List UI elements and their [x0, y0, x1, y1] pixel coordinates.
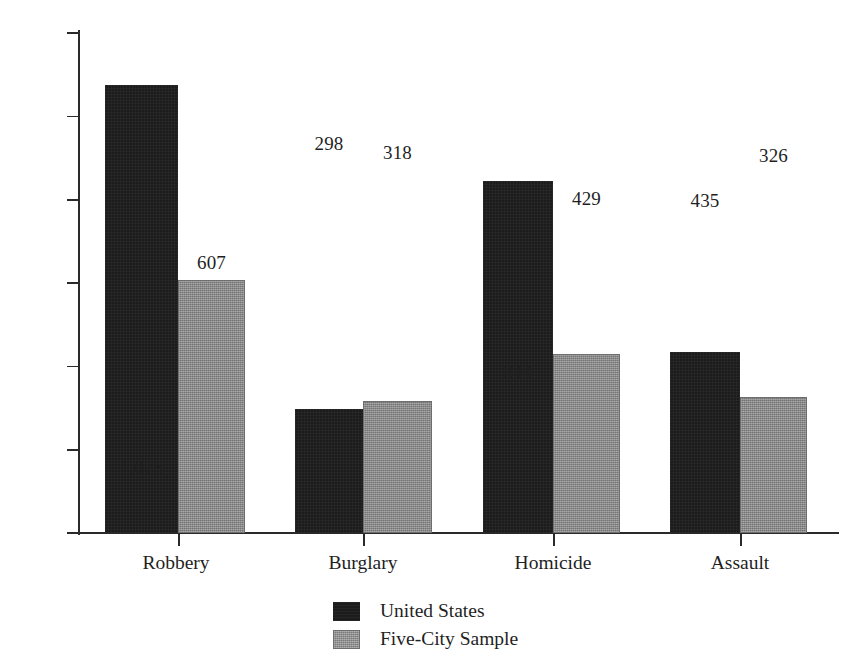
y-tick-mark	[67, 199, 79, 201]
legend: United States Five-City Sample	[333, 597, 518, 653]
y-tick-mark	[67, 366, 79, 368]
x-tick-mark-robbery	[178, 534, 180, 546]
legend-label-united-states: United States	[380, 600, 485, 622]
bar-assault-united-states	[670, 352, 740, 533]
legend-swatch-dark-icon	[333, 602, 360, 621]
bar-value-homicide-united-states: 844	[503, 361, 532, 383]
bar-robbery-five-city-sample	[178, 280, 245, 533]
bar-assault-five-city-sample	[740, 397, 807, 533]
x-category-label-robbery: Robbery	[142, 552, 209, 574]
bar-value-burglary-five-city-sample: 318	[383, 142, 412, 164]
legend-item-five-city-sample: Five-City Sample	[333, 625, 518, 653]
x-tick-mark-homicide	[553, 534, 555, 546]
bar-value-assault-united-states: 435	[690, 190, 719, 212]
x-category-label-burglary: Burglary	[329, 552, 398, 574]
bar-chart: 1,200 1,000 800 600 400 200 0 1,075 607 …	[0, 0, 853, 664]
y-tick-mark	[67, 449, 79, 451]
bar-value-assault-five-city-sample: 326	[759, 145, 788, 167]
y-tick-mark	[67, 116, 79, 118]
bar-burglary-united-states	[295, 409, 363, 533]
x-category-label-homicide: Homicide	[515, 552, 592, 574]
y-tick-mark	[67, 32, 79, 34]
bar-value-robbery-united-states: 1,075	[120, 457, 164, 479]
bar-value-robbery-five-city-sample: 607	[197, 252, 226, 274]
x-category-label-assault: Assault	[711, 552, 770, 574]
bar-value-homicide-five-city-sample: 429	[572, 188, 601, 210]
bar-homicide-five-city-sample	[553, 354, 620, 533]
legend-swatch-gray-icon	[333, 630, 360, 649]
x-tick-mark-burglary	[363, 534, 365, 546]
plot-area: 1,075 607 298 318 844 429 435 326	[79, 33, 839, 533]
x-tick-mark-assault	[740, 534, 742, 546]
bar-value-burglary-united-states: 298	[314, 133, 343, 155]
legend-item-united-states: United States	[333, 597, 518, 625]
y-tick-mark	[67, 532, 79, 534]
legend-label-five-city-sample: Five-City Sample	[380, 628, 518, 650]
bar-burglary-five-city-sample	[363, 401, 432, 534]
y-tick-mark	[67, 282, 79, 284]
bar-homicide-united-states	[483, 181, 553, 533]
